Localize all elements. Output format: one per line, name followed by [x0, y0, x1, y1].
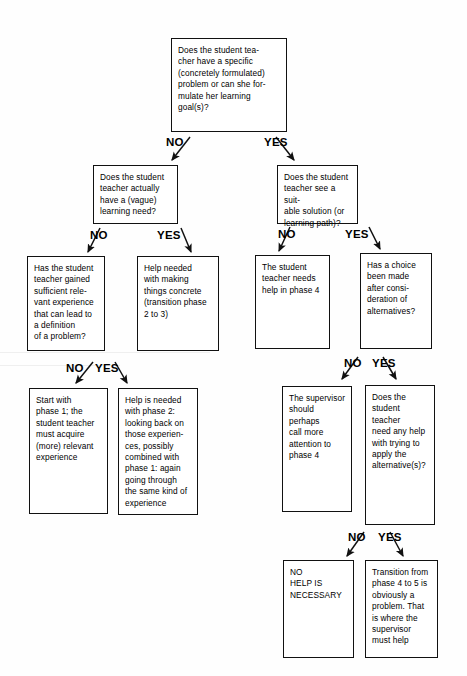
- node-transition-4-to-5: Transition from phase 4 to 5 is obviousl…: [365, 560, 438, 658]
- node-suitable-solution-question: Does the student teacher see a suit- abl…: [277, 165, 358, 224]
- edge-label-experience-yes: YES: [95, 362, 119, 374]
- flowchart-page: Does the student tea- cher have a specif…: [0, 0, 467, 676]
- node-help-phase2: Help is needed with phase 2: looking bac…: [118, 388, 198, 515]
- edge-label-solution-yes: YES: [345, 228, 369, 240]
- edge-label-solution-no: NO: [278, 228, 296, 240]
- node-vague-need-question: Does the student teacher actually have a…: [93, 165, 178, 224]
- scan-artifact-line: [0, 352, 210, 353]
- edge-label-root-yes: YES: [264, 136, 288, 148]
- edge-label-choice-no: NO: [344, 357, 362, 369]
- node-need-help-apply-question: Does the student teacher need any help w…: [365, 385, 435, 525]
- edge-label-apply-yes: YES: [378, 531, 402, 543]
- node-choice-made-question: Has a choice been made after consi- dera…: [360, 253, 432, 349]
- edge-label-apply-no: NO: [348, 531, 366, 543]
- edge-label-vague-yes: YES: [157, 229, 181, 241]
- node-needs-help-phase4: The student teacher needs help in phase …: [255, 255, 330, 349]
- node-sufficient-experience-question: Has the student teacher gained sufficien…: [27, 256, 105, 351]
- node-supervisor-attention: The supervisor should perhaps call more …: [282, 386, 352, 512]
- node-no-help-necessary: NO HELP IS NECESSARY: [283, 560, 354, 658]
- node-start-phase1: Start with phase 1; the student teacher …: [29, 388, 108, 514]
- node-root-question: Does the student tea- cher have a specif…: [171, 38, 287, 132]
- node-help-concrete: Help needed with making things concrete …: [137, 256, 219, 351]
- edge-label-experience-no: NO: [66, 362, 84, 374]
- edge-label-choice-yes: YES: [372, 357, 396, 369]
- edge-label-root-no: NO: [166, 136, 184, 148]
- edge-label-vague-no: NO: [90, 229, 108, 241]
